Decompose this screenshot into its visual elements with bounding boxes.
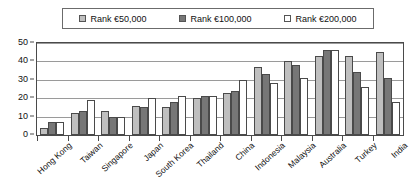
bar-south-korea-series-2[interactable] [178, 96, 186, 135]
bar-hong-kong-series-0[interactable] [40, 128, 48, 135]
bar-group-hong-kong [37, 43, 68, 135]
legend-label-series-1: Rank €100,000 [190, 14, 251, 24]
y-tick-label-0: 0 [23, 130, 28, 139]
bar-india-series-1[interactable] [384, 78, 392, 135]
bar-south-korea-series-1[interactable] [170, 102, 178, 135]
bar-malaysia-series-1[interactable] [292, 65, 300, 135]
bar-china-series-2[interactable] [239, 80, 247, 135]
bar-japan-series-1[interactable] [140, 107, 148, 135]
bar-south-korea-series-0[interactable] [162, 107, 170, 135]
bar-japan-series-2[interactable] [148, 98, 156, 135]
bar-turkey-series-1[interactable] [353, 72, 361, 135]
bar-group-malaysia [281, 43, 312, 135]
bar-taiwan-series-0[interactable] [71, 113, 79, 135]
x-axis-label-india: India [389, 141, 409, 160]
bar-group-taiwan [68, 43, 99, 135]
bar-australia-series-1[interactable] [323, 50, 331, 135]
bar-group-turkey [342, 43, 373, 135]
x-axis-label-indonesia: Indonesia [254, 141, 287, 172]
legend-item-rank-100000: Rank €100,000 [179, 14, 251, 24]
y-tick-mark-10 [30, 115, 34, 116]
bar-hong-kong-series-2[interactable] [56, 122, 64, 135]
legend-swatch-series-2 [284, 15, 291, 22]
bar-china-series-0[interactable] [223, 93, 231, 135]
y-tick-label-50: 50 [18, 38, 28, 47]
bar-australia-series-2[interactable] [331, 50, 339, 135]
y-tick-label-40: 40 [18, 56, 28, 65]
x-axis-label-turkey: Turkey [353, 141, 378, 165]
y-tick-mark-40 [30, 60, 34, 61]
legend-label-series-0: Rank €50,000 [90, 14, 146, 24]
y-tick-label-30: 30 [18, 74, 28, 83]
x-axis-label-australia: Australia [317, 141, 348, 170]
bar-taiwan-series-2[interactable] [87, 100, 95, 135]
bar-singapore-series-2[interactable] [117, 117, 125, 135]
x-axis-label-china: China [234, 141, 257, 163]
bar-turkey-series-2[interactable] [361, 87, 369, 135]
bar-thailand-series-2[interactable] [209, 96, 217, 135]
chart-legend: Rank €50,000 Rank €100,000 Rank €200,000 [62, 8, 374, 29]
bar-malaysia-series-0[interactable] [284, 61, 292, 135]
x-axis-label-japan: Japan [142, 141, 165, 163]
bar-thailand-series-0[interactable] [193, 98, 201, 135]
y-axis: 01020304050 [0, 42, 34, 136]
bar-series-container [37, 43, 403, 135]
bar-indonesia-series-0[interactable] [254, 67, 262, 135]
bar-group-south-korea [159, 43, 190, 135]
y-tick-mark-50 [30, 42, 34, 43]
bar-thailand-series-1[interactable] [201, 96, 209, 135]
y-tick-label-10: 10 [18, 111, 28, 120]
x-axis-label-taiwan: Taiwan [78, 141, 104, 165]
x-axis-label-malaysia: Malaysia [287, 141, 318, 170]
bar-india-series-0[interactable] [376, 52, 384, 135]
x-axis-label-thailand: Thailand [196, 141, 226, 170]
legend-swatch-series-1 [179, 15, 186, 22]
bar-indonesia-series-2[interactable] [270, 83, 278, 135]
bar-group-china [220, 43, 251, 135]
bar-singapore-series-1[interactable] [109, 117, 117, 135]
bar-australia-series-0[interactable] [315, 56, 323, 135]
y-tick-label-20: 20 [18, 93, 28, 102]
x-axis-label-singapore: Singapore [100, 141, 135, 174]
y-tick-mark-20 [30, 97, 34, 98]
y-tick-mark-30 [30, 78, 34, 79]
bar-india-series-2[interactable] [392, 102, 400, 135]
legend-label-series-2: Rank €200,000 [295, 14, 356, 24]
bar-turkey-series-0[interactable] [345, 56, 353, 135]
x-axis-labels: Hong KongTaiwanSingaporeJapanSouth Korea… [37, 141, 403, 189]
bar-china-series-1[interactable] [231, 91, 239, 135]
legend-item-rank-50000: Rank €50,000 [79, 14, 146, 24]
y-tick-mark-0 [30, 134, 34, 135]
bar-taiwan-series-1[interactable] [79, 111, 87, 135]
x-axis-label-hong-kong: Hong Kong [36, 141, 74, 176]
bar-group-thailand [190, 43, 221, 135]
bar-singapore-series-0[interactable] [101, 111, 109, 135]
bar-group-india [373, 43, 404, 135]
bar-japan-series-0[interactable] [132, 106, 140, 135]
legend-swatch-series-0 [79, 15, 86, 22]
legend-item-rank-200000: Rank €200,000 [284, 14, 356, 24]
bar-group-japan [129, 43, 160, 135]
bar-malaysia-series-2[interactable] [300, 78, 308, 135]
bar-group-australia [312, 43, 343, 135]
bar-hong-kong-series-1[interactable] [48, 122, 56, 135]
bar-indonesia-series-1[interactable] [262, 74, 270, 135]
bar-group-singapore [98, 43, 129, 135]
bar-group-indonesia [251, 43, 282, 135]
